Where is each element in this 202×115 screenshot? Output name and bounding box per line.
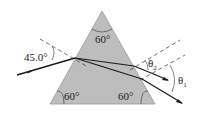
theta1-arc (170, 65, 175, 92)
incident-angle-label: 45.0° (24, 51, 48, 63)
theta1-label: θ1 (178, 74, 187, 89)
incident-angle-arc (52, 46, 54, 60)
apex-angle-label: 60° (95, 33, 110, 45)
bottom-right-angle-label: 60° (118, 90, 133, 102)
bottom-left-angle-label: 60° (64, 90, 79, 102)
prism-diagram: 60° 60° 60° 45.0° θ2 θ1 (0, 0, 202, 115)
theta2-label: θ2 (148, 57, 157, 72)
